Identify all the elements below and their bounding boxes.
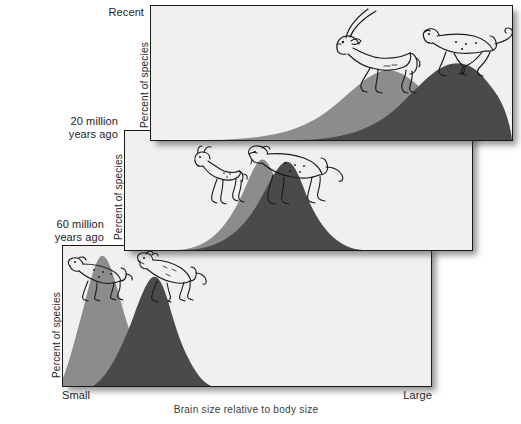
x-axis-max-label: Large [372, 389, 432, 401]
y-axis-label-60m: Percent of species [51, 292, 62, 378]
period-label-20-million: 20 million years ago [18, 115, 118, 141]
period-label-60-million: 60 million years ago [2, 218, 104, 244]
x-axis-label: Brain size relative to body size [62, 404, 430, 415]
plot-20m [125, 131, 472, 250]
plot-60m [63, 246, 431, 386]
y-axis-label-20m: Percent of species [113, 154, 124, 240]
curve-predator-20m [185, 162, 363, 250]
figure-canvas: Recent Percent of species [0, 0, 521, 424]
panel-60-million-years-ago [62, 245, 432, 387]
y-axis-label-recent: Percent of species [139, 42, 150, 128]
plot-recent [151, 6, 512, 140]
panel-recent [150, 5, 513, 141]
x-axis-min-label: Small [62, 389, 90, 401]
period-label-recent: Recent [46, 6, 144, 19]
panel-20-million-years-ago [124, 130, 473, 251]
